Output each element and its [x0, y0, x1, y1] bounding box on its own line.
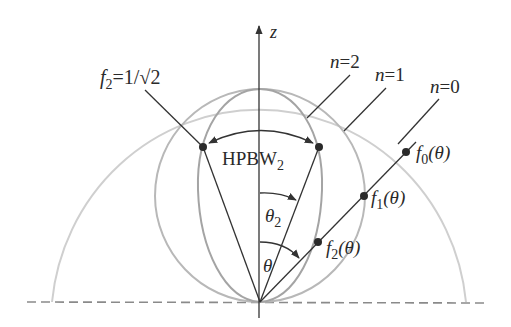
radiation-pattern-diagram: z f2=1/√2 HPBW2 θ2 θ n=2 n=1 n=0 f — [0, 0, 511, 327]
n0-label: n=0 — [430, 76, 460, 97]
hpbw-label: HPBW2 — [222, 148, 284, 173]
f2-point-dot — [314, 238, 322, 246]
hpbw-arc-arrow — [209, 131, 313, 144]
half-power-label: f2=1/√2 — [100, 66, 160, 92]
f0-theta-label: f0(θ) — [416, 142, 450, 167]
theta2-arc-arrow — [260, 193, 296, 200]
half-power-right-dot — [315, 143, 323, 151]
z-axis-label: z — [269, 22, 277, 42]
theta-label: θ — [263, 255, 272, 276]
n2-label: n=2 — [330, 51, 360, 72]
leader-n0 — [398, 99, 439, 144]
f1-theta-label: f1(θ) — [371, 187, 405, 212]
n1-label: n=1 — [375, 64, 405, 85]
f1-point-dot — [360, 192, 368, 200]
leader-n2 — [307, 75, 350, 118]
half-power-left-dot — [199, 143, 207, 151]
pattern-curve-n2 — [198, 89, 322, 302]
theta2-label: θ2 — [265, 205, 281, 230]
pattern-curve-n1 — [155, 89, 365, 302]
hpbw-left-ray — [203, 147, 260, 302]
f0-point-dot — [402, 148, 410, 156]
leader-n1 — [344, 88, 386, 131]
